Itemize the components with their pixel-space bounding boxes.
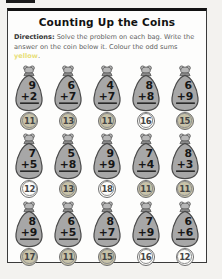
coin-inner-ring: 16 [139, 249, 153, 263]
addend-bottom: +7 [99, 90, 116, 103]
addend-bottom: +8 [60, 158, 77, 171]
bags-grid: 9 +2 11 6 +7 13 [8, 64, 206, 266]
coin-inner-ring: 12 [177, 249, 191, 263]
money-bag-icon: 9 +2 [10, 65, 48, 112]
coin-inner-ring: 11 [100, 113, 114, 127]
coin-inner-ring: 15 [177, 113, 191, 127]
answer-coin: 11 [176, 180, 194, 198]
money-bag-icon: 8 +9 [10, 201, 48, 248]
addend-bottom: +8 [138, 90, 155, 103]
answer-coin: 17 [20, 248, 38, 266]
answer-coin: 11 [137, 180, 155, 198]
bag-unit: 8 +9 17 [10, 201, 49, 266]
money-bag-icon: 6 +6 [166, 201, 204, 248]
coin-inner-ring: 11 [177, 181, 191, 195]
money-bag-icon: 4 +7 [88, 65, 126, 112]
money-bag-icon: 8 +8 [127, 65, 165, 112]
coin-inner-ring: 13 [61, 113, 75, 127]
bag-unit: 9 +9 18 [88, 133, 127, 198]
coin-sum-value: 18 [102, 183, 113, 193]
bag-unit: 8 +8 16 [126, 65, 165, 130]
money-bag-icon: 7 +5 [10, 133, 48, 180]
addend-bottom: +9 [99, 158, 116, 171]
coin-sum-value: 13 [63, 115, 74, 125]
answer-coin: 15 [98, 248, 116, 266]
money-bag-icon: 6 +5 [49, 201, 87, 248]
addend-bottom: +2 [21, 90, 38, 103]
bag-unit: 7 +4 11 [126, 133, 165, 198]
coin-sum-value: 11 [179, 183, 190, 193]
addend-bottom: +9 [138, 226, 155, 239]
addend-bottom: +9 [176, 90, 193, 103]
coin-sum-value: 15 [179, 115, 190, 125]
coin-sum-value: 11 [140, 183, 151, 193]
bag-unit: 7 +9 16 [126, 201, 165, 266]
coin-inner-ring: 12 [22, 181, 36, 195]
addend-bottom: +5 [60, 226, 77, 239]
bag-unit: 7 +5 12 [10, 133, 49, 198]
coin-inner-ring: 11 [22, 113, 36, 127]
coin-inner-ring: 11 [61, 249, 75, 263]
answer-coin: 13 [59, 180, 77, 198]
bag-unit: 4 +7 11 [88, 65, 127, 130]
directions-highlight-word: yellow [14, 52, 38, 60]
answer-coin: 16 [137, 248, 155, 266]
bag-unit: 6 +5 11 [49, 201, 88, 266]
coin-sum-value: 16 [140, 251, 151, 261]
money-bag-icon: 8 +3 [166, 133, 204, 180]
money-bag-icon: 9 +9 [88, 133, 126, 180]
coin-sum-value: 11 [24, 115, 35, 125]
answer-coin: 12 [176, 248, 194, 266]
bag-unit: 6 +7 13 [49, 65, 88, 130]
directions-label: Directions: [14, 33, 55, 41]
coin-sum-value: 12 [179, 251, 190, 261]
coin-inner-ring: 18 [100, 181, 114, 195]
answer-coin: 16 [137, 112, 155, 130]
directions-period: . [38, 52, 40, 60]
money-bag-icon: 7 +9 [127, 201, 165, 248]
bag-unit: 6 +6 12 [165, 201, 204, 266]
answer-coin: 15 [176, 112, 194, 130]
bag-unit: 5 +8 13 [49, 133, 88, 198]
money-bag-icon: 8 +7 [88, 201, 126, 248]
answer-coin: 18 [98, 180, 116, 198]
answer-coin: 11 [59, 248, 77, 266]
bag-unit: 9 +2 11 [10, 65, 49, 130]
directions: Directions: Solve the problem on each ba… [14, 33, 200, 62]
money-bag-icon: 5 +8 [49, 133, 87, 180]
coin-sum-value: 15 [102, 251, 113, 261]
money-bag-icon: 6 +7 [49, 65, 87, 112]
addend-bottom: +4 [138, 158, 155, 171]
coin-inner-ring: 13 [61, 181, 75, 195]
coin-inner-ring: 16 [139, 113, 153, 127]
answer-coin: 11 [20, 112, 38, 130]
addend-bottom: +5 [21, 158, 38, 171]
coin-inner-ring: 17 [22, 249, 36, 263]
answer-coin: 12 [20, 180, 38, 198]
addend-bottom: +6 [176, 226, 193, 239]
money-bag-icon: 7 +4 [127, 133, 165, 180]
answer-coin: 13 [59, 112, 77, 130]
coin-sum-value: 17 [24, 251, 35, 261]
bag-unit: 8 +7 15 [88, 201, 127, 266]
scan-artifact-mark [6, 0, 35, 3]
addend-bottom: +9 [21, 226, 38, 239]
page-title: Counting Up the Coins [8, 16, 206, 28]
addend-bottom: +3 [176, 158, 193, 171]
addend-bottom: +7 [60, 90, 77, 103]
addend-bottom: +7 [99, 226, 116, 239]
coin-sum-value: 13 [63, 183, 74, 193]
coin-sum-value: 11 [63, 251, 74, 261]
worksheet-page: Counting Up the Coins Directions: Solve … [7, 8, 207, 263]
coin-sum-value: 16 [140, 115, 151, 125]
coin-inner-ring: 11 [139, 181, 153, 195]
money-bag-icon: 6 +9 [166, 65, 204, 112]
bag-unit: 6 +9 15 [165, 65, 204, 130]
answer-coin: 11 [98, 112, 116, 130]
coin-sum-value: 12 [24, 183, 35, 193]
coin-sum-value: 11 [102, 115, 113, 125]
coin-inner-ring: 15 [100, 249, 114, 263]
bag-unit: 8 +3 11 [165, 133, 204, 198]
